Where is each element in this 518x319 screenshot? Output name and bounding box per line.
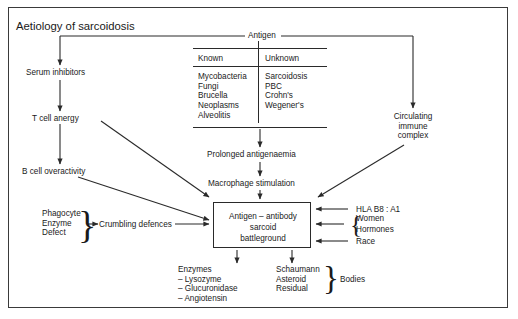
table-header-rule (193, 66, 327, 67)
node-serum-inhibitors: Serum inhibitors (26, 68, 85, 78)
table-column-divider (258, 41, 259, 123)
node-hormones: Hormones (356, 225, 394, 235)
node-b-cell-overactivity: B cell overactivity (22, 167, 85, 177)
node-circulating-immune-complex: Circulating immune complex (385, 112, 441, 141)
node-crumbling-defences: Crumbling defences (99, 220, 172, 230)
node-race: Race (356, 237, 375, 247)
table-cell-unknown-items: Sarcoidosis PBC Crohn's Wegener's (265, 72, 307, 111)
phagocyte-brace: } (78, 206, 96, 244)
antigen-table: Known Unknown Mycobacteria Fungi Brucell… (193, 48, 327, 128)
node-macrophage-stimulation: Macrophage stimulation (208, 179, 295, 189)
battleground-label: Antigen – antibody sarcoid battleground (214, 211, 312, 244)
node-bodies-label: Bodies (340, 275, 365, 285)
node-enzymes: Enzymes – Lysozyme – Glucuronidase – Ang… (178, 265, 238, 303)
node-t-cell-anergy: T cell anergy (32, 114, 79, 124)
node-prolonged-antigenaemia: Prolonged antigenaemia (207, 150, 296, 160)
diagram-page: Aetiology of sarcoidosis (0, 0, 518, 319)
table-top-rule (193, 48, 327, 49)
table-bottom-rule (193, 127, 327, 128)
node-phagocyte-enzyme-defect: Phagocyte Enzyme Defect (42, 209, 81, 238)
node-women: Women (356, 214, 384, 224)
antigen-label: Antigen (248, 31, 276, 41)
node-bodies-list: Schaumann Asteroid Residual (276, 265, 320, 294)
table-cell-known-items: Mycobacteria Fungi Brucella Neoplasms Al… (198, 72, 247, 121)
battleground-box: Antigen – antibody sarcoid battleground (213, 202, 311, 248)
table-header-unknown: Unknown (265, 54, 299, 64)
bodies-brace: } (323, 262, 339, 295)
table-header-known: Known (198, 54, 223, 64)
